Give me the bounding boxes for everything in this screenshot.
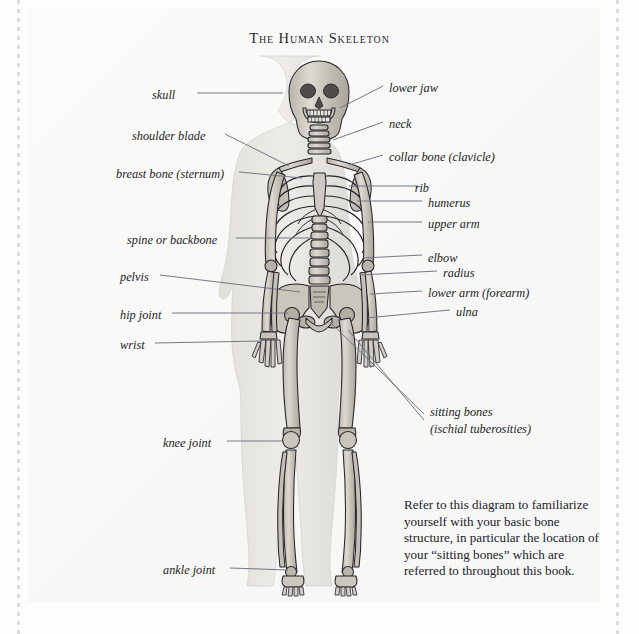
- label-humerus: humerus: [428, 195, 470, 211]
- leader-collar-bone: [349, 155, 383, 165]
- label-sitting-bones-line2: (ischial tuberosities): [430, 421, 531, 437]
- label-ulna: ulna: [456, 304, 478, 320]
- label-sitting-bones-line1: sitting bones: [430, 404, 493, 420]
- leader-lower-arm: [370, 291, 422, 294]
- label-lower-jaw: lower jaw: [389, 80, 438, 96]
- label-knee-joint: knee joint: [163, 435, 211, 451]
- label-skull: skull: [152, 87, 175, 103]
- label-spine: spine or backbone: [127, 232, 217, 248]
- label-upper-arm: upper arm: [428, 216, 480, 232]
- label-lower-arm: lower arm (forearm): [428, 285, 529, 301]
- label-shoulder-blade: shoulder blade: [132, 128, 205, 144]
- leader-sitting-bones-2: [348, 330, 424, 420]
- label-neck: neck: [389, 116, 412, 132]
- label-elbow: elbow: [428, 250, 457, 266]
- page-root: The Human Skeleton: [0, 0, 639, 634]
- label-ankle-joint: ankle joint: [163, 562, 215, 578]
- leader-ulna: [366, 310, 450, 318]
- label-breast-bone: breast bone (sternum): [116, 166, 224, 182]
- label-hip-joint: hip joint: [120, 307, 161, 323]
- label-pelvis: pelvis: [120, 269, 149, 285]
- label-rib: rib: [374, 180, 429, 196]
- label-radius: radius: [443, 265, 474, 281]
- label-collar-bone: collar bone (clavicle): [389, 149, 495, 165]
- label-wrist: wrist: [120, 337, 145, 353]
- note-paragraph: Refer to this diagram to familiarize you…: [404, 497, 600, 580]
